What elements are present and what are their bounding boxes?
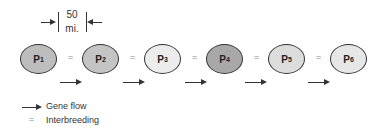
population-p1: P1 — [20, 44, 57, 74]
scale-left-arrow — [41, 22, 54, 23]
population-p4: P4 — [206, 44, 243, 74]
interbreeding-symbol: = — [254, 52, 259, 62]
gene-flow-arrow — [308, 82, 328, 83]
interbreeding-symbol: = — [192, 52, 197, 62]
gene-flow-arrow — [123, 82, 143, 83]
legend-gene-flow-arrow-icon — [22, 107, 40, 108]
gene-flow-arrow — [185, 82, 205, 83]
population-p3: P3 — [144, 44, 181, 74]
interbreeding-symbol: = — [316, 52, 321, 62]
legend-interbreeding-symbol: = — [29, 114, 34, 124]
scale-value: 50 — [59, 9, 85, 20]
interbreeding-symbol: = — [68, 52, 73, 62]
interbreeding-symbol: = — [130, 52, 135, 62]
legend-gene-flow-label: Gene flow — [46, 101, 87, 111]
scale-unit: mi. — [59, 23, 85, 34]
legend-interbreeding-label: Interbreeding — [46, 115, 99, 125]
population-p6: P6 — [330, 44, 367, 74]
population-p5: P5 — [268, 44, 305, 74]
population-p2: P2 — [82, 44, 119, 74]
gene-flow-arrow — [60, 82, 80, 83]
gene-flow-arrow — [245, 82, 265, 83]
scale-right-arrow — [89, 22, 102, 23]
